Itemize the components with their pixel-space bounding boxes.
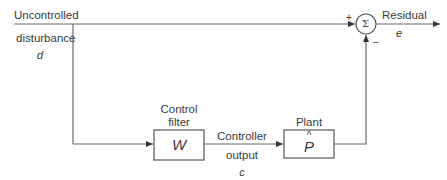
- control-filter-title-line2: filter: [154, 116, 204, 128]
- residual-symbol: e: [396, 27, 402, 39]
- control-filter-symbol: W: [154, 137, 204, 153]
- plant-title: Plant: [284, 116, 334, 128]
- sum-symbol: Σ: [362, 18, 369, 30]
- control-filter-title-line1: Control: [154, 103, 204, 115]
- disturbance-label-line2: disturbance: [16, 32, 72, 44]
- minus-sign: −: [373, 37, 379, 49]
- controller-output-symbol: c: [232, 166, 252, 178]
- residual-label: Residual: [382, 9, 427, 21]
- disturbance-symbol: d: [30, 49, 50, 61]
- plus-sign: +: [346, 12, 352, 24]
- plant-symbol: P: [284, 139, 334, 155]
- plant-to-sum-line: [334, 35, 366, 144]
- controller-output-label-line1: Controller: [212, 130, 272, 142]
- disturbance-label-line1: Uncontrolled: [14, 9, 79, 21]
- controller-output-label-line2: output: [212, 149, 272, 161]
